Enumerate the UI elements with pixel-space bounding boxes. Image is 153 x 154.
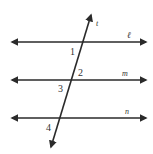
label-t: t bbox=[96, 19, 99, 28]
angle-2-label: 2 bbox=[78, 67, 83, 78]
label-m: m bbox=[122, 69, 128, 78]
angle-4-label: 4 bbox=[46, 122, 51, 133]
label-n: n bbox=[125, 107, 129, 116]
transversal-t bbox=[51, 15, 91, 147]
label-l: ℓ bbox=[127, 30, 131, 40]
parallel-lines-diagram: ℓ m n t 1 2 3 4 bbox=[0, 0, 153, 154]
angle-3-label: 3 bbox=[58, 83, 63, 94]
angle-1-label: 1 bbox=[70, 46, 75, 57]
